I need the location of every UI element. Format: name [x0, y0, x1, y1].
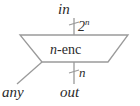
any-signal-wire	[17, 62, 42, 84]
encoder-block-label: n-enc	[50, 43, 81, 57]
input-bus-width-exponent: n	[85, 17, 90, 27]
encoder-diagram: in 2n n-enc n out any	[0, 0, 140, 106]
input-port-label: in	[58, 2, 70, 17]
input-bus-width-label: 2n	[78, 18, 90, 34]
any-port-label: any	[2, 85, 24, 100]
encoder-block-label-suffix: -enc	[57, 42, 81, 57]
output-port-label: out	[60, 85, 79, 100]
output-bus-width-label: n	[79, 66, 86, 79]
encoder-block-label-prefix: n	[50, 42, 57, 57]
input-bus-width-base: 2	[78, 19, 85, 34]
